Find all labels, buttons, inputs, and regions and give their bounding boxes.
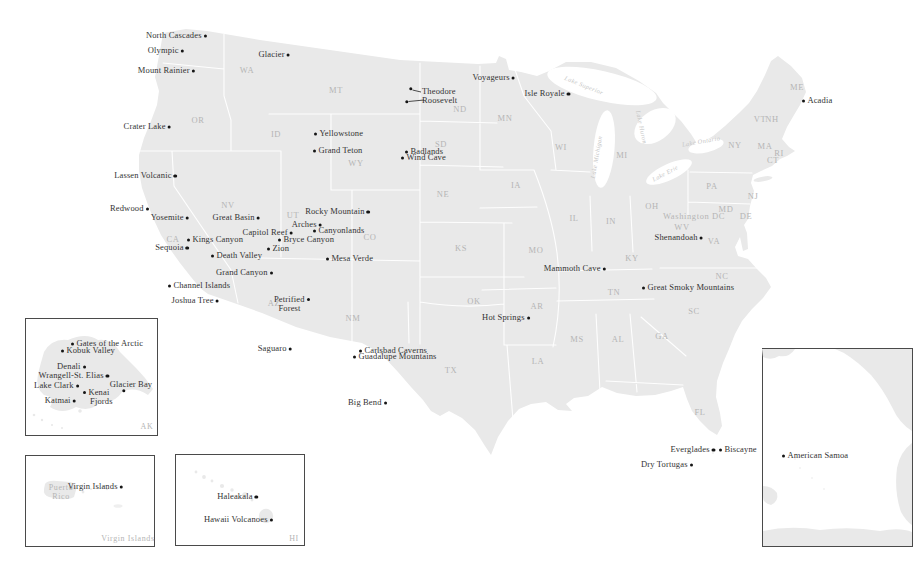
park-dot <box>567 92 570 95</box>
park-label-everglades: Everglades <box>671 445 716 454</box>
park-dot <box>174 174 177 177</box>
park-label-yosemite: Yosemite <box>151 213 189 222</box>
park-label-olympic: Olympic <box>148 46 184 55</box>
park-label-text: Guadalupe Mountains <box>358 352 436 361</box>
park-dot <box>168 284 171 287</box>
park-label-saguaro: Saguaro <box>258 344 292 353</box>
park-label-theodore-roosevelt: TheodoreRoosevelt <box>422 86 457 104</box>
park-label-text: Grand Canyon <box>216 268 268 277</box>
park-label-text: Isle Royale <box>524 89 564 98</box>
park-label-glacier-bay: Glacier Bay <box>110 380 152 389</box>
long-island-shape <box>753 175 773 183</box>
inset-region-label-puerto-rico: Virgin Islands <box>101 534 154 543</box>
state-label-nm: NM <box>346 314 361 324</box>
park-label-lines: TheodoreRoosevelt <box>422 86 457 104</box>
park-dot <box>204 34 207 37</box>
park-dot <box>278 238 281 241</box>
state-label-il: IL <box>569 214 578 224</box>
state-label-ia: IA <box>511 181 521 191</box>
park-dot <box>106 374 109 377</box>
park-dot <box>401 156 404 159</box>
park-label-text: Saguaro <box>258 344 287 353</box>
park-label-text: Hot Springs <box>482 313 525 322</box>
park-label-text: Virgin Islands <box>68 482 118 491</box>
park-label-text: Kobuk Valley <box>66 346 115 355</box>
park-label-text: Bryce Canyon <box>283 235 334 244</box>
park-label-text: Sequoia <box>155 243 183 252</box>
state-label-mn: MN <box>498 114 513 124</box>
park-label-yellowstone: Yellowstone <box>314 129 363 138</box>
state-label-mi: MI <box>616 151 628 161</box>
state-label-ne: NE <box>437 190 450 200</box>
park-dot <box>270 518 273 521</box>
park-label-lassen-volcanic: Lassen Volcanic <box>114 171 177 180</box>
park-label-lines: KenaiFjords <box>83 388 113 406</box>
state-label-la: LA <box>532 357 545 367</box>
park-label-acadia: Acadia <box>802 96 832 105</box>
park-label-grand-canyon: Grand Canyon <box>216 268 273 277</box>
park-dot <box>802 99 805 102</box>
state-label-in: IN <box>606 217 616 227</box>
park-label-text: American Samoa <box>787 451 848 460</box>
park-dot <box>642 286 645 289</box>
park-dot <box>367 210 370 213</box>
park-label-rocky-mountain: Rocky Mountain <box>305 207 370 216</box>
park-label-shenandoah: Shenandoah <box>655 233 703 242</box>
park-dot <box>313 149 316 152</box>
inset-region-label-alaska: AK <box>141 422 154 431</box>
map-geometry <box>0 0 917 575</box>
park-label-sequoia: Sequoia <box>155 243 189 252</box>
park-label-line: Roosevelt <box>422 96 457 105</box>
park-dot <box>314 132 317 135</box>
park-label-text: Shenandoah <box>655 233 698 242</box>
park-label-hawaii-volcanoes: Hawaii Volcanoes <box>204 515 273 524</box>
park-label-text: Grand Teton <box>318 146 362 155</box>
park-label-text: Yosemite <box>151 213 184 222</box>
state-label-or: OR <box>191 116 204 126</box>
park-label-text: Mammoth Cave <box>544 264 601 273</box>
park-label-text: Rocky Mountain <box>305 207 364 216</box>
state-label-id: ID <box>271 130 281 140</box>
park-dot <box>512 76 515 79</box>
park-dot <box>307 298 310 301</box>
state-label-ma: MA <box>758 142 773 152</box>
park-label-text: Channel Islands <box>173 281 230 290</box>
park-label-joshua-tree: Joshua Tree <box>172 296 219 305</box>
park-label-voyageurs: Voyageurs <box>473 73 515 82</box>
park-label-biscayne: Biscayne <box>719 445 757 454</box>
state-label-tx: TX <box>445 366 458 376</box>
state-label-ga: GA <box>655 332 668 342</box>
park-label-petrified-forest: PetrifiedForest <box>274 295 310 313</box>
park-label-mount-rainier: Mount Rainier <box>138 66 195 75</box>
park-dot <box>287 53 290 56</box>
park-dot <box>120 485 123 488</box>
park-dot <box>181 49 184 52</box>
park-dot <box>186 246 189 249</box>
park-label-text: Lake Clark <box>34 381 74 390</box>
park-label-text: Lassen Volcanic <box>114 171 171 180</box>
american-samoa-world-shapes <box>762 349 912 546</box>
park-label-text: Crater Lake <box>124 122 166 131</box>
state-label-pa: PA <box>706 182 717 192</box>
park-label-north-cascades: North Cascades <box>146 31 207 40</box>
park-label-text: Katmai <box>45 396 71 405</box>
state-label-va: VA <box>708 237 720 247</box>
park-dot <box>270 271 273 274</box>
state-label-fl: FL <box>694 408 705 418</box>
state-label-me: ME <box>790 83 804 93</box>
state-label-ky: KY <box>625 254 638 264</box>
park-label-text: Everglades <box>671 445 710 454</box>
park-label-zion: Zion <box>267 244 289 253</box>
park-label-great-basin: Great Basin <box>213 213 260 222</box>
park-label-channel-islands: Channel Islands <box>168 281 230 290</box>
park-label-text: Redwood <box>110 204 144 213</box>
park-dot <box>186 216 189 219</box>
state-label-ct: CT <box>767 156 779 166</box>
park-dot <box>255 495 258 498</box>
park-label-death-valley: Death Valley <box>211 251 262 260</box>
park-dot <box>603 267 606 270</box>
park-label-glacier: Glacier <box>259 50 290 59</box>
state-label-ms: MS <box>570 335 584 345</box>
park-label-kenai-fjords: KenaiFjords <box>83 388 113 406</box>
park-label-dry-tortugas: Dry Tortugas <box>641 460 693 469</box>
